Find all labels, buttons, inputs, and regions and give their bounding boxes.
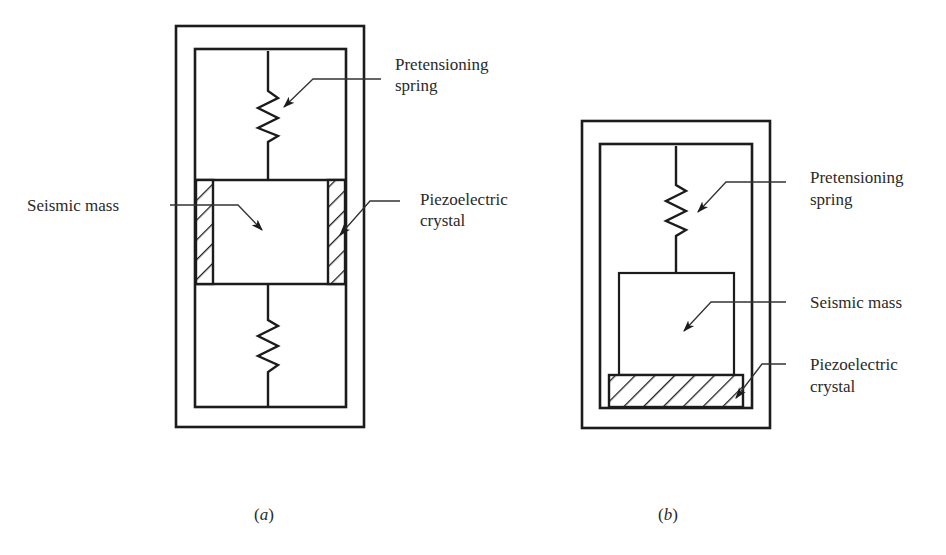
panel-a: Pretensioning spring Seismic mass Piezoe… [27,26,508,524]
label-spring-b-line2: spring [810,190,853,209]
seismic-mass-a [213,180,328,284]
label-mass-b: Seismic mass [810,293,902,312]
label-mass-a: Seismic mass [27,196,119,215]
caption-b: (b) [658,505,678,524]
label-crystal-b-line2: crystal [810,377,856,396]
label-spring-a-line1: Pretensioning [395,55,489,74]
label-crystal-a-line2: crystal [420,211,466,230]
label-crystal-a-line1: Piezoelectric [420,190,508,209]
seismic-mass-b [619,273,734,375]
accelerometer-diagram: Pretensioning spring Seismic mass Piezoe… [0,0,946,555]
leader-mass-a [170,205,262,230]
label-crystal-b-line1: Piezoelectric [810,355,898,374]
leader-spring-b [698,182,786,212]
caption-a: (a) [254,505,274,524]
leader-crystal-a [340,201,400,235]
label-spring-a-line2: spring [395,76,438,95]
label-spring-b-line1: Pretensioning [810,168,904,187]
piezo-crystal-b [609,375,743,407]
piezo-crystal-left-a [196,180,213,284]
panel-b: Pretensioning spring Seismic mass Piezoe… [582,121,904,524]
leader-spring-a [284,79,381,107]
spring-b [666,146,686,273]
lower-spring-a [258,284,278,407]
upper-spring-a [258,51,278,180]
